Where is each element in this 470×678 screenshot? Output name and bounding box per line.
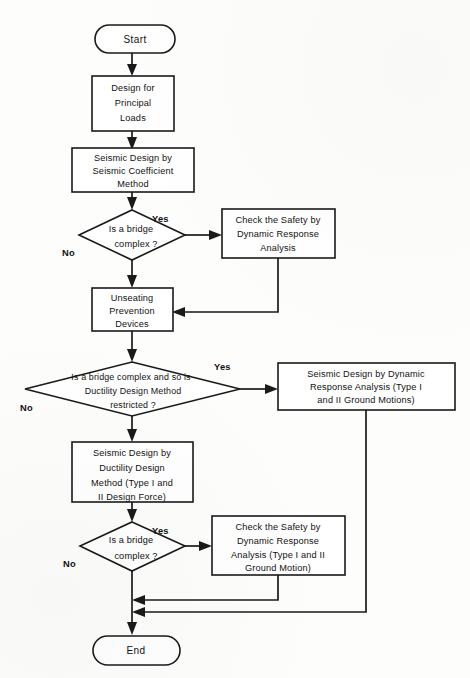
- decision1-line-2: complex ?: [114, 239, 157, 249]
- seismic-coefficient-line-3: Method: [117, 179, 149, 189]
- arrowhead-ductility-no: [127, 429, 137, 442]
- arrowhead-decision1-no: [127, 275, 137, 288]
- unseating-line-1: Unseating: [111, 293, 154, 303]
- decision-ductility-line-3: restricted ?: [110, 400, 156, 410]
- node-design-for-principal-loads[interactable]: Design for Principal Loads: [92, 76, 174, 131]
- decision-ductility-line-2: Ductility Design Method: [85, 386, 182, 396]
- check-safety-1-line-1: Check the Safety by: [235, 215, 320, 225]
- decision2-line-1: Is a bridge: [109, 535, 154, 545]
- arrowhead-check2-to-end: [132, 595, 145, 605]
- arrowhead-start-to-design: [127, 64, 137, 76]
- decision1-line-1: Is a bridge: [109, 224, 154, 234]
- design-principal-line-1: Design for: [111, 83, 154, 93]
- decision-ductility-no-label: No: [20, 403, 33, 413]
- seismic-coefficient-line-1: Seismic Design by: [94, 153, 172, 163]
- decision1-yes-label: Yes: [152, 214, 169, 224]
- node-end[interactable]: End: [93, 636, 180, 665]
- check-safety-1-line-2: Dynamic Response: [237, 229, 319, 239]
- node-unseating-prevention-devices[interactable]: Unseating Prevention Devices: [92, 288, 173, 331]
- arrowhead-coefficient-to-decision1: [127, 197, 137, 210]
- start-label: Start: [123, 34, 146, 45]
- decision2-yes-label: Yes: [152, 526, 169, 536]
- arrowhead-decision1-yes: [209, 230, 222, 240]
- connector-check1-to-unseating: [183, 258, 278, 312]
- arrowhead-decision2-no: [127, 622, 137, 635]
- arrowhead-check1-to-unseating: [172, 307, 185, 317]
- seismic-dynamic-line-1: Seismic Design by Dynamic: [307, 369, 425, 379]
- node-decision-is-bridge-complex-2[interactable]: Is a bridge complex ? Yes No: [63, 522, 185, 571]
- decision1-no-label: No: [62, 248, 75, 258]
- check-safety-2-line-4: Ground Motion): [245, 563, 311, 573]
- decision-ductility-line-1: Is a bridge complex and so is: [71, 372, 191, 382]
- seismic-dynamic-line-3: and II Ground Motions): [317, 395, 414, 405]
- unseating-line-3: Devices: [115, 319, 149, 329]
- node-check-safety-dynamic-response-1[interactable]: Check the Safety by Dynamic Response Ana…: [222, 209, 335, 258]
- arrowhead-ductility-yes: [265, 384, 278, 394]
- end-label: End: [127, 645, 146, 656]
- seismic-ductility-line-3: Method (Type I and: [91, 478, 173, 488]
- decision2-no-label: No: [63, 559, 76, 569]
- node-seismic-ductility-design-method[interactable]: Seismic Design by Ductility Design Metho…: [72, 442, 193, 502]
- check-safety-1-line-3: Analysis: [260, 243, 296, 253]
- seismic-ductility-line-2: Ductility Design: [99, 463, 165, 473]
- arrowhead-decision2-yes: [199, 541, 212, 551]
- design-principal-line-3: Loads: [120, 113, 146, 123]
- check-safety-2-line-1: Check the Safety by: [235, 522, 320, 532]
- flowchart-canvas: Start Design for Principal Loads Seismic…: [0, 0, 470, 678]
- node-decision-ductility-restricted[interactable]: Is a bridge complex and so is Ductility …: [20, 362, 240, 416]
- decision2-line-2: complex ?: [114, 551, 157, 561]
- seismic-dynamic-line-2: Response Analysis (Type I: [310, 382, 422, 392]
- connector-dynamic-response-to-end: [143, 410, 366, 612]
- seismic-coefficient-line-2: Seismic Coefficient: [93, 166, 174, 176]
- decision-ductility-yes-label: Yes: [214, 362, 231, 372]
- node-check-safety-dynamic-response-2[interactable]: Check the Safety by Dynamic Response Ana…: [212, 516, 345, 575]
- check-safety-2-line-2: Dynamic Response: [237, 536, 319, 546]
- connector-check2-to-end: [143, 575, 278, 600]
- node-seismic-coefficient-method[interactable]: Seismic Design by Seismic Coefficient Me…: [72, 148, 194, 192]
- node-start[interactable]: Start: [95, 25, 175, 53]
- unseating-line-2: Prevention: [109, 306, 154, 316]
- flowchart-svg: Start Design for Principal Loads Seismic…: [0, 0, 470, 678]
- seismic-ductility-line-4: II Design Force): [98, 492, 166, 502]
- decision1-shape: [79, 210, 185, 260]
- node-decision-is-bridge-complex-1[interactable]: Is a bridge complex ? Yes No: [62, 210, 185, 260]
- node-seismic-dynamic-response-analysis[interactable]: Seismic Design by Dynamic Response Analy…: [278, 363, 455, 410]
- design-principal-line-2: Principal: [115, 98, 152, 108]
- arrowhead-ductility-box-to-decision2: [127, 509, 137, 522]
- check-safety-2-line-3: Analysis (Type I and II: [231, 550, 325, 560]
- decision2-shape: [80, 522, 185, 571]
- arrowhead-dynamic-response-to-end: [132, 607, 145, 617]
- arrowhead-unseating-to-decision-ductility: [127, 349, 137, 362]
- seismic-ductility-line-1: Seismic Design by: [93, 448, 171, 458]
